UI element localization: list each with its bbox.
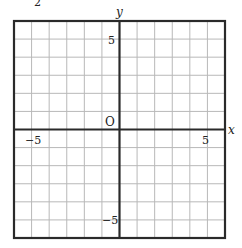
y-axis-label: y	[115, 5, 123, 19]
origin-label: O	[105, 115, 115, 129]
coordinate-plane: 2 y x O 5 −5 −5 5	[0, 0, 242, 248]
y-tick-5: 5	[108, 34, 115, 47]
x-tick-5: 5	[202, 134, 209, 147]
y-tick-neg5: −5	[102, 214, 118, 227]
x-axis-label: x	[228, 123, 235, 137]
x-tick-neg5: −5	[25, 134, 41, 147]
corner-fragment-label: 2	[34, 0, 41, 9]
